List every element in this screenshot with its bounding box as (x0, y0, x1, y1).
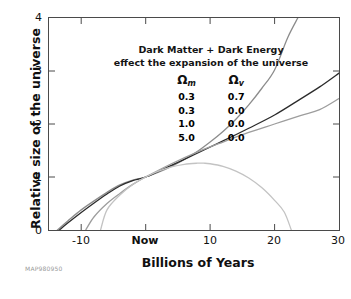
y-tick-label-0: 0 (2, 224, 42, 237)
x-axis-title: Billions of Years (48, 255, 348, 270)
x-tick-label-20: 20 (267, 234, 281, 247)
expansion-curve-0 (57, 18, 297, 230)
y-tick-label-1: 1 (2, 171, 42, 184)
plot-area: Dark Matter + Dark Energy effect the exp… (48, 17, 340, 231)
axis-ticks (49, 18, 339, 230)
x-tick-label-30: 30 (331, 234, 345, 247)
x-tick-label-10: 10 (203, 234, 217, 247)
y-tick-label-2: 2 (2, 118, 42, 131)
y-tick-label-4: 4 (2, 11, 42, 24)
image-credit: MAP980950 (25, 265, 63, 272)
y-tick-label-3: 3 (2, 64, 42, 77)
expansion-curve-3 (101, 163, 292, 230)
x-tick-label--10: -10 (72, 234, 90, 247)
x-tick-label-now: Now (132, 234, 159, 247)
cosmology-expansion-figure: Relative size of the universe 4 3 2 1 0 (0, 0, 351, 299)
expansion-curves (49, 18, 339, 230)
